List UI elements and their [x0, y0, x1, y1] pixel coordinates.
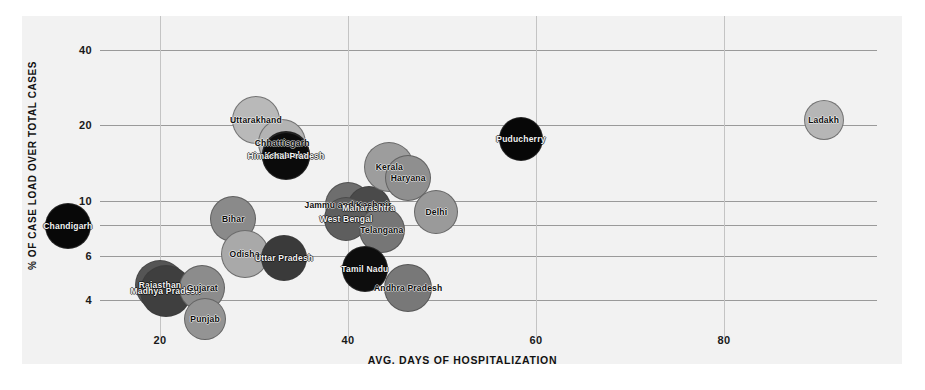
gridline-horizontal: [100, 50, 877, 51]
bubble-point[interactable]: [384, 264, 432, 312]
bubble-point[interactable]: [804, 100, 844, 140]
plot-area: ChandigarhRajasthanMadhya PradeshGujarat…: [100, 16, 877, 364]
gridline-horizontal: [100, 256, 877, 257]
gridline-horizontal: [100, 201, 877, 202]
y-axis-title: % OF CASE LOAD OVER TOTAL CASES: [27, 36, 38, 296]
gridline-vertical: [724, 16, 725, 338]
x-axis-title: AVG. DAYS OF HOSPITALIZATION: [0, 354, 925, 366]
bubble-point[interactable]: [499, 117, 543, 161]
bubble-chart: 468102040 20406080 ChandigarhRajasthanMa…: [0, 0, 925, 390]
gridline-horizontal: [100, 125, 877, 126]
bubble-point[interactable]: [261, 235, 307, 281]
bubble-point[interactable]: [262, 132, 310, 180]
gridline-vertical: [536, 16, 537, 338]
bubble-point[interactable]: [342, 246, 388, 292]
bubble-point[interactable]: [414, 190, 458, 234]
bubble-point[interactable]: [184, 298, 226, 340]
gridline-vertical: [348, 16, 349, 338]
plot-clip: ChandigarhRajasthanMadhya PradeshGujarat…: [22, 16, 902, 364]
bubble-point[interactable]: [45, 203, 91, 249]
